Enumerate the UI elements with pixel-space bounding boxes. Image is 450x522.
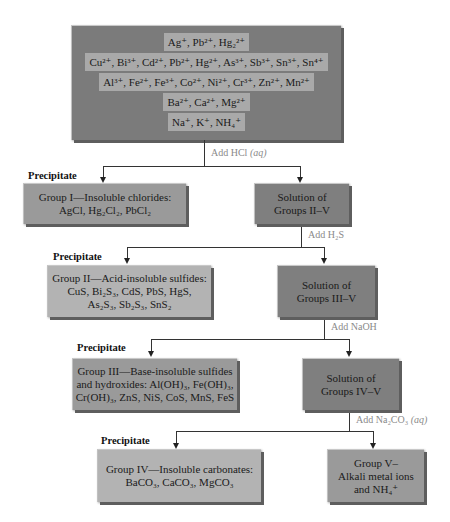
group-ii-cations: Cu²⁺, Bi³⁺, Cd²⁺, Pb²⁺, Hg²⁺, As³⁺, Sb³⁺… <box>85 53 327 71</box>
connector-line <box>176 431 177 443</box>
connector-line <box>373 431 374 443</box>
precipitate-label: Precipitate <box>53 251 102 262</box>
precipitate-label: Precipitate <box>28 170 77 181</box>
solution-groups-iii-v-box: Solution of Groups III–V <box>277 265 375 317</box>
precipitate-label: Precipitate <box>101 435 150 446</box>
connector-line <box>349 413 350 431</box>
reagent-label-na2co3: Add Na₂CO₃ (aq) <box>356 414 427 425</box>
connector-line <box>151 339 350 340</box>
group-i-cations: Ag⁺, Pb²⁺, Hg₂²⁺ <box>164 33 249 51</box>
arrow-down-icon <box>321 258 327 264</box>
connector-line <box>176 431 374 432</box>
connector-line <box>204 140 205 167</box>
arrow-down-icon <box>124 258 130 264</box>
connector-line <box>301 227 302 248</box>
group-iii-precipitate-box: Group III—Base-insoluble sulfides and hy… <box>72 358 237 410</box>
group-ii-precipitate-box: Group II—Acid-insoluble sulfides: CuS, B… <box>47 265 211 317</box>
arrow-down-icon <box>346 351 352 357</box>
connector-line <box>349 339 350 351</box>
arrow-down-icon <box>148 351 154 357</box>
solution-groups-ii-v-box: Solution of Groups II–V <box>254 183 349 224</box>
connector-line <box>151 339 152 351</box>
connector-line <box>324 320 325 339</box>
group-iv-precipitate-box: Group IV—Insoluble carbonates: BaCO₃, Ca… <box>97 449 261 502</box>
group-v-cations: Na⁺, K⁺, NH₄⁺ <box>168 113 245 131</box>
cation-mixture-box: Ag⁺, Pb²⁺, Hg₂²⁺ Cu²⁺, Bi³⁺, Cd²⁺, Pb²⁺,… <box>71 25 341 140</box>
reagent-label-h2s: Add H₂S <box>308 229 344 240</box>
precipitate-label: Precipitate <box>77 342 126 353</box>
reagent-label-naoh: Add NaOH <box>331 321 377 332</box>
group-v-solution-box: Group V– Alkali metal ions and NH₄⁺ <box>327 449 424 502</box>
connector-line <box>103 166 301 167</box>
group-iii-cations: Al³⁺, Fe²⁺, Fe³⁺, Co²⁺, Ni²⁺, Cr³⁺, Zn²⁺… <box>99 73 314 91</box>
reagent-label-hcl: Add HCl (aq) <box>211 147 267 158</box>
group-i-precipitate-box: Group I—Insoluble chlorides: AgCl, Hg₂Cl… <box>23 183 186 224</box>
solution-groups-iv-v-box: Solution of Groups IV–V <box>302 358 399 410</box>
connector-line <box>127 247 325 248</box>
group-iv-cations: Ba²⁺, Ca²⁺, Mg²⁺ <box>163 93 249 111</box>
